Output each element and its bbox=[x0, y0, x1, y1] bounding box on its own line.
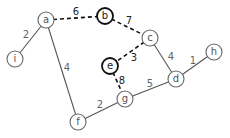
node-label: g bbox=[122, 93, 128, 104]
edge-weight-a-b: 6 bbox=[73, 6, 79, 17]
node-label: c bbox=[147, 32, 153, 43]
edge-weight-b-c: 7 bbox=[126, 15, 132, 26]
edge-weight-c-e: 3 bbox=[131, 52, 137, 63]
node-label: b bbox=[102, 10, 108, 21]
node-f: f bbox=[70, 114, 86, 130]
edge-weight-f-g: 2 bbox=[97, 99, 103, 110]
node-a: a bbox=[38, 12, 54, 28]
node-g: g bbox=[117, 91, 133, 107]
node-label: d bbox=[173, 73, 179, 84]
node-label: h bbox=[211, 46, 217, 57]
node-d: d bbox=[168, 71, 184, 87]
edge-weight-e-g: 8 bbox=[119, 75, 125, 86]
edge-weight-a-f: 4 bbox=[64, 62, 70, 73]
node-i: i bbox=[7, 51, 23, 67]
edge-weight-a-i: 2 bbox=[23, 29, 29, 40]
edge-weight-g-d: 5 bbox=[147, 78, 153, 89]
node-label: a bbox=[43, 14, 49, 25]
graph-canvas: 6738242541 abcedhgfi bbox=[0, 0, 230, 138]
node-h: h bbox=[206, 44, 222, 60]
edge-a-f bbox=[46, 20, 78, 122]
edge-weight-c-d: 4 bbox=[168, 51, 174, 62]
node-e: e bbox=[102, 58, 118, 74]
node-label: e bbox=[107, 60, 113, 71]
node-label: i bbox=[14, 53, 17, 64]
node-c: c bbox=[142, 30, 158, 46]
node-b: b bbox=[97, 8, 113, 24]
edge-weight-d-h: 1 bbox=[190, 55, 196, 66]
node-label: f bbox=[76, 116, 80, 127]
